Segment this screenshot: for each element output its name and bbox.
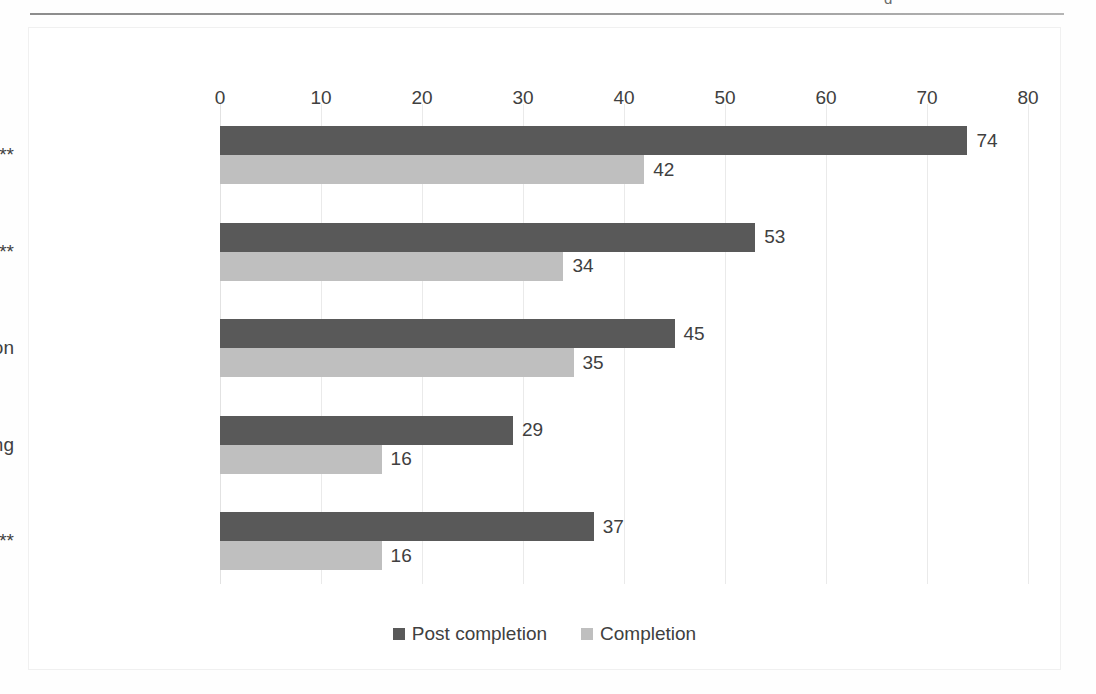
bar-value-label: 16 — [382, 448, 412, 470]
bar — [220, 319, 675, 348]
category-label: Upscaling — [0, 434, 14, 456]
bar-value-label: 34 — [563, 255, 593, 277]
bar-value-label: 16 — [382, 545, 412, 567]
bar — [220, 512, 594, 541]
bar-value-label: 37 — [594, 516, 624, 538]
bar — [220, 252, 563, 281]
plot-area: 74425334453529163716 — [220, 104, 1028, 584]
bar-value-label: 45 — [675, 323, 705, 345]
bar-value-label: 35 — [574, 352, 604, 374]
bar — [220, 445, 382, 474]
bar — [220, 155, 644, 184]
scanned-page: g 01020304050607080 74425334453529163716… — [0, 0, 1096, 694]
bar — [220, 223, 755, 252]
bar — [220, 416, 513, 445]
gridline-70 — [927, 104, 928, 584]
chart-legend: Post completionCompletion — [29, 623, 1060, 645]
category-label: Mainstreaming** — [0, 241, 14, 263]
square-marker-icon — [393, 628, 405, 640]
bar-value-label: 42 — [644, 159, 674, 181]
category-label: Market Change** — [0, 530, 14, 552]
gridline-80 — [1028, 104, 1029, 584]
header-horizontal-rule — [30, 13, 1064, 15]
chart-container: 01020304050607080 74425334453529163716 S… — [28, 27, 1061, 670]
category-label: Replication — [0, 337, 14, 359]
bar — [220, 541, 382, 570]
square-marker-icon — [581, 628, 593, 640]
bar — [220, 126, 967, 155]
category-label: Sustaining*** — [0, 144, 14, 166]
bar-value-label: 29 — [513, 419, 543, 441]
bar-value-label: 74 — [967, 130, 997, 152]
legend-item[interactable]: Post completion — [393, 623, 547, 645]
bar-value-label: 53 — [755, 226, 785, 248]
legend-label: Completion — [600, 623, 696, 645]
cut-off-header-text: g — [884, 0, 900, 4]
gridline-60 — [826, 104, 827, 584]
bar — [220, 348, 574, 377]
legend-item[interactable]: Completion — [581, 623, 696, 645]
legend-label: Post completion — [412, 623, 547, 645]
gridline-50 — [725, 104, 726, 584]
